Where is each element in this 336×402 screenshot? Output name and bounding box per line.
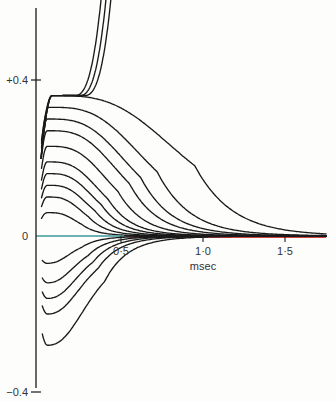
- x-tick-label: 0·5: [113, 245, 129, 257]
- y-tick-label: +0.4: [6, 74, 28, 86]
- y-tick-label: 0: [22, 230, 28, 242]
- x-tick-label: 1·0: [195, 245, 211, 257]
- curve-family: [36, 0, 326, 345]
- curve-pos-3: [42, 119, 327, 236]
- curve-pos-6: [42, 162, 327, 236]
- curve-runaway-1: [41, 0, 103, 158]
- y-tick-label: −0.4: [6, 386, 28, 398]
- curve-pos-4: [42, 131, 327, 236]
- x-axis-label: msec: [190, 260, 217, 272]
- curve-neg-2: [42, 236, 326, 283]
- x-tick-label: 1·5: [277, 245, 293, 257]
- curve-pos-2: [42, 107, 327, 235]
- chart: +0.40−0.4 0·51·01·5 msec: [0, 0, 336, 402]
